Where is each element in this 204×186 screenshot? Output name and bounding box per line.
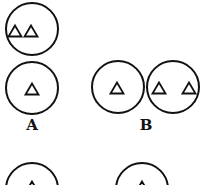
circle-c-partial: [6, 163, 58, 185]
triangle-icon: [136, 182, 149, 186]
triangle-icon: [111, 83, 124, 94]
triangle-icon: [26, 84, 39, 95]
circle-a: [6, 62, 58, 114]
triangle-icon: [25, 26, 38, 37]
triangle-icon: [26, 182, 39, 186]
triangle-icon: [9, 26, 22, 37]
diagram-canvas: A B: [0, 0, 204, 185]
circle-group: [6, 3, 199, 185]
circle-outline: [92, 61, 144, 113]
top-circle: [6, 3, 58, 55]
circle-b2: [147, 61, 199, 113]
label-a: A: [25, 116, 38, 134]
circle-outline: [6, 62, 58, 114]
label-b: B: [140, 116, 153, 134]
circle-d-partial: [116, 163, 168, 185]
triangle-icon: [183, 83, 196, 94]
circle-b1: [92, 61, 144, 113]
triangle-icon: [153, 83, 166, 94]
